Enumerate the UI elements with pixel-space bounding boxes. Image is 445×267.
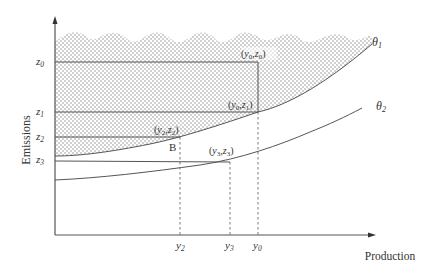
- point-label-y0z0: (y0,z0): [241, 47, 277, 61]
- tick-z1: z1: [35, 105, 44, 119]
- theta1-label: θ1: [372, 35, 382, 50]
- x-axis-arrow-icon: [368, 233, 376, 238]
- tick-z0: z0: [35, 55, 44, 69]
- production-emissions-diagram: Emissions Production z0 z1 z2 z3 y2 y3 y…: [0, 0, 445, 267]
- y-axis-arrow-icon: [53, 16, 58, 24]
- z3-level-line: [55, 161, 230, 162]
- tick-y2: y2: [175, 239, 185, 253]
- tick-y0: y0: [252, 239, 262, 253]
- point-label-y3z3: (y3,z3): [209, 145, 234, 158]
- y-axis-title: Emissions: [19, 115, 33, 165]
- tick-z2: z2: [35, 130, 44, 144]
- tick-y3: y3: [224, 239, 234, 253]
- theta2-label: θ2: [376, 99, 386, 114]
- svg-text:(y3,z3): (y3,z3): [209, 145, 234, 158]
- tick-z3: z3: [35, 153, 44, 167]
- x-axis-title: Production: [365, 250, 416, 262]
- marker-b: B: [169, 141, 176, 153]
